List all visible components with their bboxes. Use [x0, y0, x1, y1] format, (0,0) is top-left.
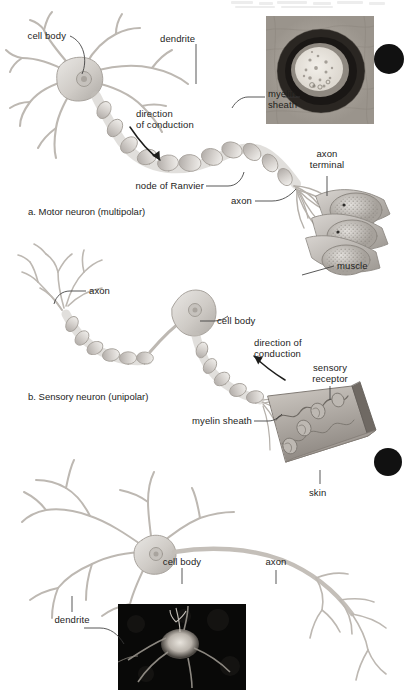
- label-a-myelin-sheath: myelin sheath: [268, 88, 297, 110]
- label-a-muscle: muscle: [337, 260, 368, 271]
- caption-panel-a: a. Motor neuron (multipolar): [28, 206, 145, 217]
- label-b-cell-body: cell body: [217, 315, 255, 326]
- label-c-dendrite: dendrite: [42, 614, 102, 625]
- label-a-axon: axon: [198, 195, 252, 206]
- label-b-myelin-sheath: myelin sheath: [168, 415, 252, 426]
- label-a-node-of-ranvier: node of Ranvier: [86, 180, 204, 191]
- label-c-axon: axon: [252, 556, 300, 567]
- edge-marker-bottom: [374, 448, 402, 476]
- label-a-axon-terminal: axon terminal: [296, 148, 358, 170]
- label-b-sensory-receptor: sensory receptor: [300, 362, 360, 384]
- label-a-dendrite: dendrite: [160, 33, 195, 44]
- label-b-axon: axon: [89, 285, 110, 296]
- label-a-cell-body: cell body: [0, 30, 66, 41]
- label-b-skin: skin: [309, 487, 326, 498]
- label-c-cell-body: cell body: [152, 556, 212, 567]
- caption-panel-b: b. Sensory neuron (unipolar): [28, 391, 148, 402]
- edge-marker-top: [374, 44, 404, 74]
- label-b-direction-of-conduction: direction of conduction: [254, 337, 302, 359]
- label-a-direction-of-conduction: direction of conduction: [136, 108, 194, 130]
